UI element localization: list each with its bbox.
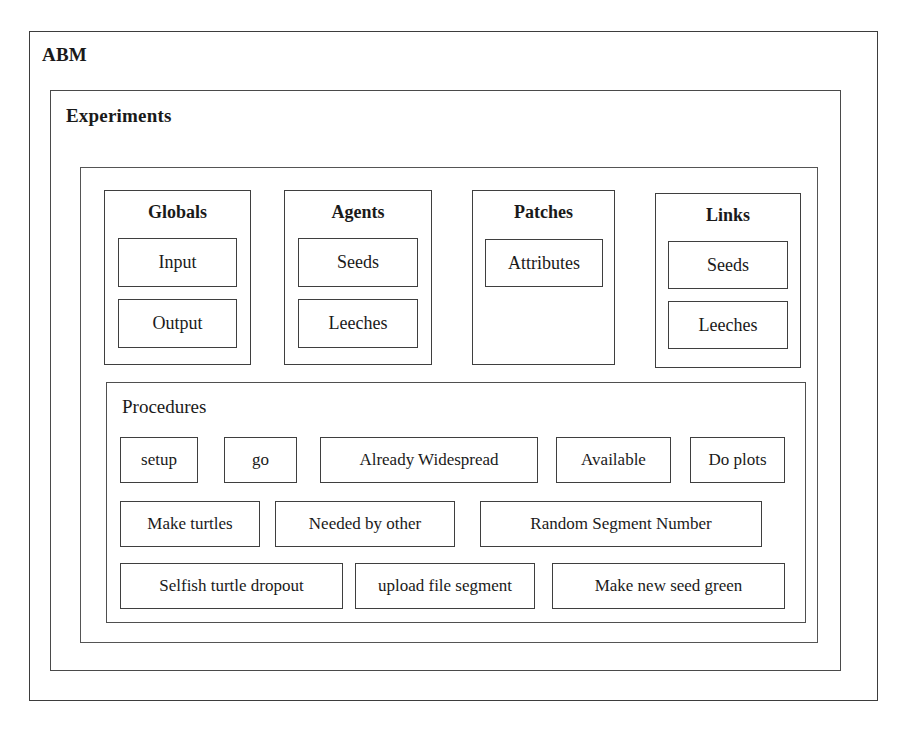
procedures-frame-label: Procedures (122, 396, 206, 418)
procedure-make-turtles[interactable]: Make turtles (120, 501, 260, 547)
procedure-random-segment-number[interactable]: Random Segment Number (480, 501, 762, 547)
procedure-upload-file-segment-label: upload file segment (378, 576, 512, 596)
procedure-make-new-seed-green-label: Make new seed green (595, 576, 743, 596)
patches-item-attributes-label: Attributes (508, 253, 580, 274)
procedure-go[interactable]: go (224, 437, 297, 483)
procedure-available[interactable]: Available (556, 437, 671, 483)
procedure-already-widespread[interactable]: Already Widespread (320, 437, 538, 483)
procedure-do-plots-label: Do plots (708, 450, 766, 470)
globals-item-output[interactable]: Output (118, 299, 237, 348)
diagram-canvas: ABM Experiments Globals Input Output Age… (0, 0, 902, 732)
agents-item-seeds-label: Seeds (337, 252, 379, 273)
procedure-needed-by-other-label: Needed by other (309, 514, 421, 534)
patches-item-attributes[interactable]: Attributes (485, 239, 603, 287)
procedure-random-segment-number-label: Random Segment Number (530, 514, 711, 534)
globals-item-output-label: Output (152, 313, 202, 334)
abm-frame-label: ABM (42, 44, 87, 66)
procedure-make-new-seed-green[interactable]: Make new seed green (552, 563, 785, 609)
links-item-leeches[interactable]: Leeches (668, 301, 788, 349)
agents-item-leeches[interactable]: Leeches (298, 299, 418, 348)
agents-item-seeds[interactable]: Seeds (298, 238, 418, 287)
procedure-go-label: go (252, 450, 269, 470)
agents-item-leeches-label: Leeches (329, 313, 388, 334)
procedure-make-turtles-label: Make turtles (147, 514, 232, 534)
procedure-setup[interactable]: setup (120, 437, 198, 483)
group-links-title: Links (656, 205, 800, 226)
globals-item-input-label: Input (159, 252, 197, 273)
experiments-frame-label: Experiments (66, 105, 172, 127)
procedure-do-plots[interactable]: Do plots (690, 437, 785, 483)
procedure-available-label: Available (581, 450, 646, 470)
procedure-already-widespread-label: Already Widespread (359, 450, 498, 470)
group-patches-title: Patches (473, 202, 614, 223)
procedure-upload-file-segment[interactable]: upload file segment (355, 563, 535, 609)
links-item-leeches-label: Leeches (699, 315, 758, 336)
procedure-needed-by-other[interactable]: Needed by other (275, 501, 455, 547)
links-item-seeds[interactable]: Seeds (668, 241, 788, 289)
procedure-setup-label: setup (141, 450, 177, 470)
procedure-selfish-turtle-dropout[interactable]: Selfish turtle dropout (120, 563, 343, 609)
procedure-selfish-turtle-dropout-label: Selfish turtle dropout (159, 576, 303, 596)
group-agents-title: Agents (285, 202, 431, 223)
globals-item-input[interactable]: Input (118, 238, 237, 287)
group-globals-title: Globals (105, 202, 250, 223)
links-item-seeds-label: Seeds (707, 255, 749, 276)
